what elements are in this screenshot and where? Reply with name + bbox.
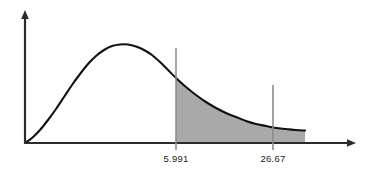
critical-value-label: 5.991 (164, 153, 189, 164)
test-statistic-label: 26.67 (261, 153, 286, 164)
chi-square-distribution-chart: 5.991 26.67 (0, 0, 375, 174)
distribution-plot-svg: 5.991 26.67 (0, 0, 375, 174)
